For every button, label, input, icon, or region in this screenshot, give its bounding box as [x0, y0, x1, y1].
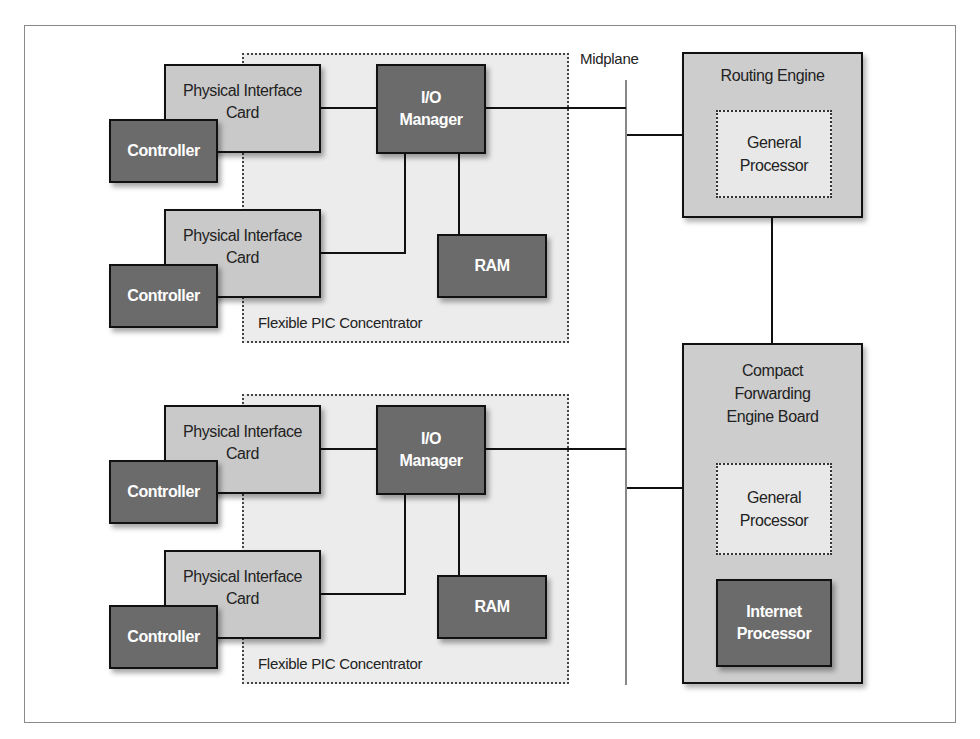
- controller-1-2: Controller: [109, 264, 218, 328]
- wire-midplane-routing-engine: [627, 134, 683, 136]
- cfeb-general-processor: General Processor: [716, 463, 832, 555]
- wire-io2-ram: [458, 493, 460, 577]
- ram-1: RAM: [437, 234, 547, 298]
- wire-io2-midplane: [484, 448, 626, 450]
- ram-2: RAM: [437, 575, 547, 639]
- midplane-label: Midplane: [580, 50, 638, 67]
- wire-io2-pic4-vertical: [404, 493, 406, 594]
- controller-2-2: Controller: [109, 605, 218, 669]
- wire-pic3-io: [320, 448, 378, 450]
- wire-pic1-io: [320, 107, 378, 109]
- compact-forwarding-engine-board: Compact Forwarding Engine Board General …: [682, 343, 863, 684]
- cfeb-title: Compact Forwarding Engine Board: [684, 359, 861, 429]
- wire-midplane-cfeb: [627, 487, 683, 489]
- controller-2-1: Controller: [109, 460, 218, 524]
- io-manager-2: I/O Manager: [376, 405, 486, 495]
- midplane-bus: [625, 80, 627, 685]
- wire-io1-midplane: [484, 107, 626, 109]
- wire-routing-engine-cfeb: [771, 217, 773, 344]
- controller-1-1: Controller: [109, 119, 218, 183]
- wire-io1-pic2-horizontal: [320, 252, 406, 254]
- internet-processor: Internet Processor: [716, 579, 832, 667]
- wire-io2-pic4-horizontal: [320, 593, 406, 595]
- io-manager-1: I/O Manager: [376, 64, 486, 154]
- fpc-module-1-label: Flexible PIC Concentrator: [258, 314, 422, 331]
- wire-io1-pic2-vertical: [404, 152, 406, 253]
- routing-engine-title: Routing Engine: [684, 64, 861, 87]
- wire-io1-ram: [458, 152, 460, 236]
- fpc-module-2-label: Flexible PIC Concentrator: [258, 655, 422, 672]
- routing-engine: Routing Engine General Processor: [682, 52, 863, 218]
- routing-engine-general-processor: General Processor: [716, 110, 832, 198]
